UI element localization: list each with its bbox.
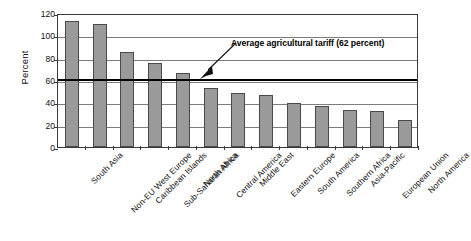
bar-slot bbox=[141, 15, 169, 147]
x-axis-category-labels: South AsiaNon-EU West EuropeCaribbean Is… bbox=[57, 150, 418, 230]
bar-slot bbox=[58, 15, 86, 147]
x-axis-category-label: South Asia bbox=[89, 150, 125, 186]
bar[interactable] bbox=[204, 88, 218, 147]
bar[interactable] bbox=[148, 63, 162, 147]
bar[interactable] bbox=[120, 52, 134, 147]
bar-slot bbox=[252, 15, 280, 147]
bar[interactable] bbox=[398, 120, 412, 147]
bar[interactable] bbox=[370, 111, 384, 147]
bar[interactable] bbox=[93, 24, 107, 147]
bar-slot bbox=[363, 15, 391, 147]
y-axis-tick-label: 120 bbox=[33, 10, 55, 18]
y-axis-title: Percent bbox=[19, 28, 30, 108]
bar-slot bbox=[308, 15, 336, 147]
y-axis-tick-label: 40 bbox=[33, 99, 55, 107]
bar-slot bbox=[86, 15, 114, 147]
bar[interactable] bbox=[231, 93, 245, 147]
bar[interactable] bbox=[65, 21, 79, 147]
bar[interactable] bbox=[259, 95, 273, 147]
bar-slot bbox=[336, 15, 364, 147]
average-tariff-annotation-label: Average agricultural tariff (62 percent) bbox=[231, 38, 384, 48]
bar-slot bbox=[391, 15, 419, 147]
bar[interactable] bbox=[176, 73, 190, 147]
y-axis-tick-label: 20 bbox=[33, 122, 55, 130]
bar-slot bbox=[280, 15, 308, 147]
bar[interactable] bbox=[315, 106, 329, 147]
bar-slot bbox=[114, 15, 142, 147]
bar-slot bbox=[169, 15, 197, 147]
x-axis-tick-mark bbox=[418, 146, 419, 150]
y-axis-tick-label: 0 bbox=[33, 144, 55, 152]
y-axis-tick-label: 100 bbox=[33, 32, 55, 40]
y-axis-tick-label: 80 bbox=[33, 55, 55, 63]
y-axis-tick-label: 60 bbox=[33, 77, 55, 85]
y-axis-tick-labels: 120100806040200 bbox=[31, 0, 55, 241]
bar[interactable] bbox=[287, 103, 301, 147]
annotation-arrow-icon bbox=[196, 40, 240, 82]
bar[interactable] bbox=[343, 110, 357, 147]
